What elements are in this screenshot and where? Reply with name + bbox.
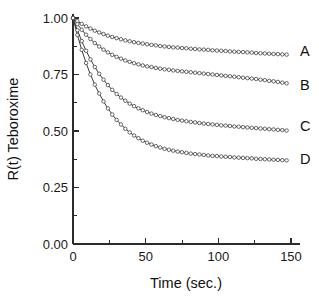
data-point-marker <box>285 82 289 86</box>
data-point-marker <box>185 120 189 124</box>
data-point-marker <box>267 158 271 162</box>
data-point-marker <box>237 75 241 79</box>
data-point-marker <box>185 151 189 155</box>
data-point-marker <box>267 79 271 83</box>
data-point-marker <box>233 125 237 129</box>
data-point-marker <box>124 59 128 63</box>
data-point-marker <box>246 51 250 55</box>
data-point-marker <box>206 72 210 76</box>
data-point-marker <box>202 122 206 126</box>
data-point-marker <box>119 37 123 41</box>
data-point-marker <box>128 40 132 44</box>
x-axis-tick-labels: 050100150 <box>69 249 301 264</box>
data-point-marker <box>76 22 80 26</box>
data-point-marker <box>84 49 88 53</box>
data-point-marker <box>189 152 193 156</box>
data-point-marker <box>163 68 167 72</box>
data-point-marker <box>281 81 285 85</box>
y-tick-label: 0.75 <box>43 67 68 82</box>
data-point-marker <box>241 76 245 80</box>
x-tick-label: 0 <box>69 249 76 264</box>
data-point-marker <box>281 128 285 132</box>
data-point-marker <box>224 124 228 128</box>
data-point-marker <box>180 150 184 154</box>
data-point-marker <box>176 46 180 50</box>
data-point-marker <box>154 66 158 70</box>
data-point-marker <box>202 72 206 76</box>
data-point-marker <box>267 127 271 131</box>
data-point-marker <box>167 68 171 72</box>
x-tick-label: 150 <box>280 249 302 264</box>
data-point-marker <box>233 50 237 54</box>
data-point-marker <box>285 53 289 57</box>
y-tick-label: 1.00 <box>43 11 68 26</box>
data-point-marker <box>267 52 271 56</box>
data-point-marker <box>233 156 237 160</box>
series-line-d <box>73 18 287 160</box>
data-point-marker <box>167 45 171 49</box>
data-point-marker <box>193 152 197 156</box>
data-point-marker <box>198 71 202 75</box>
data-point-marker <box>233 75 237 79</box>
data-point-marker <box>281 158 285 162</box>
data-point-marker <box>276 80 280 84</box>
data-point-marker <box>132 134 136 138</box>
data-point-marker <box>141 139 145 143</box>
data-point-marker <box>80 39 84 43</box>
data-point-marker <box>254 126 258 130</box>
data-point-marker <box>206 122 210 126</box>
data-point-marker <box>80 22 84 26</box>
data-point-marker <box>198 121 202 125</box>
data-point-marker <box>246 156 250 160</box>
data-point-marker <box>154 113 158 117</box>
data-point-marker <box>254 157 258 161</box>
y-tick-label: 0.25 <box>43 180 68 195</box>
data-point-marker <box>150 65 154 69</box>
data-point-marker <box>106 51 110 55</box>
data-point-marker <box>254 77 258 81</box>
data-point-marker <box>180 119 184 123</box>
data-point-marker <box>206 154 210 158</box>
data-point-marker <box>198 48 202 52</box>
data-point-marker <box>276 158 280 162</box>
data-markers-group <box>71 16 288 162</box>
data-point-marker <box>176 118 180 122</box>
data-point-marker <box>115 118 119 122</box>
series-label-d: D <box>300 151 310 167</box>
data-point-marker <box>237 156 241 160</box>
data-point-marker <box>219 124 223 128</box>
data-point-marker <box>259 157 263 161</box>
data-point-marker <box>172 117 176 121</box>
data-point-marker <box>167 116 171 120</box>
data-point-marker <box>128 131 132 135</box>
data-point-marker <box>250 77 254 81</box>
data-point-marker <box>272 158 276 162</box>
data-point-marker <box>281 53 285 57</box>
data-point-marker <box>110 113 114 117</box>
data-point-marker <box>241 50 245 54</box>
data-point-marker <box>150 143 154 147</box>
data-point-marker <box>158 146 162 150</box>
data-point-marker <box>250 51 254 55</box>
data-point-marker <box>193 47 197 51</box>
data-series-group <box>73 18 287 160</box>
data-point-marker <box>185 47 189 51</box>
data-point-marker <box>263 158 267 162</box>
data-point-marker <box>219 49 223 53</box>
data-point-marker <box>154 144 158 148</box>
data-point-marker <box>211 73 215 77</box>
data-point-marker <box>215 123 219 127</box>
data-point-marker <box>193 121 197 125</box>
data-point-marker <box>189 70 193 74</box>
data-point-marker <box>93 83 97 87</box>
x-tick-label: 50 <box>138 249 152 264</box>
data-point-marker <box>211 49 215 53</box>
data-point-marker <box>241 125 245 129</box>
data-point-marker <box>285 159 289 163</box>
data-point-marker <box>211 154 215 158</box>
x-tick-label: 100 <box>207 249 229 264</box>
data-point-marker <box>263 78 267 82</box>
data-point-marker <box>202 153 206 157</box>
data-point-marker <box>202 48 206 52</box>
data-point-marker <box>185 70 189 74</box>
